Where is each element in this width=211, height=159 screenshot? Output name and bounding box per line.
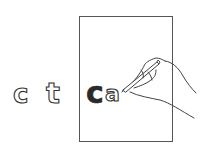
illustration-canvas: c t c a xyxy=(0,0,211,159)
loose-letter-t: t xyxy=(46,76,60,110)
paper-letter-a: a xyxy=(105,81,120,106)
paper-letter-c: c xyxy=(86,75,104,110)
illustration-scene: c t c a xyxy=(0,0,211,159)
loose-letter-c: c xyxy=(13,79,28,109)
